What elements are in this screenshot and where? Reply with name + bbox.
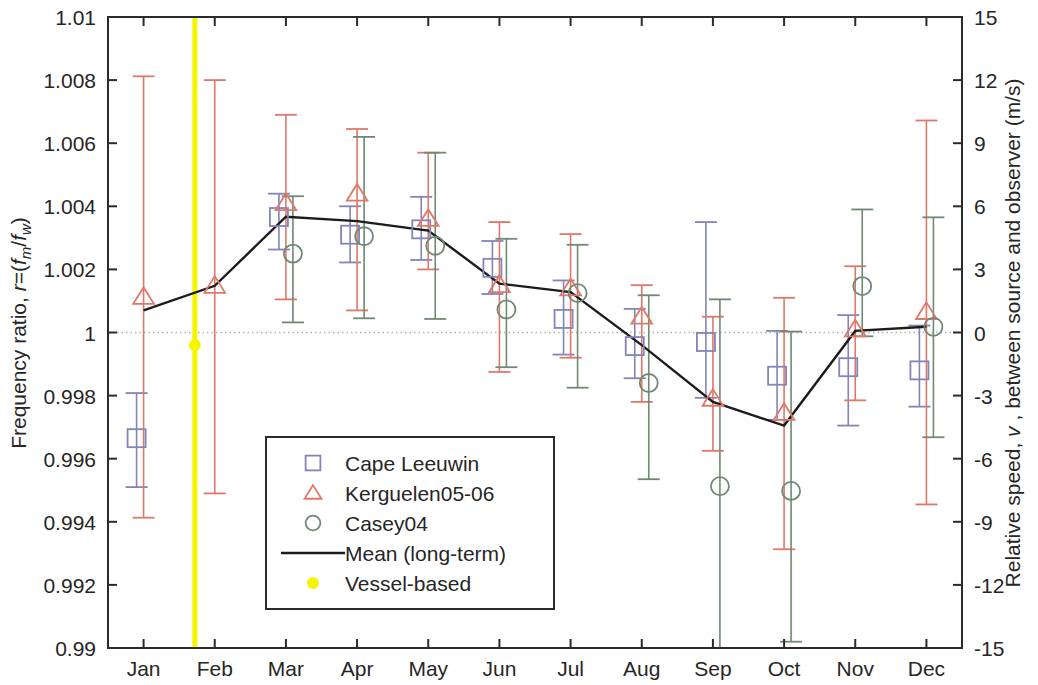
x-tick-label-nov: Nov xyxy=(837,657,875,680)
vessel-marker-group xyxy=(189,339,201,351)
y-axis-right-title: Relative speed, v , between source and o… xyxy=(1001,79,1024,588)
y-tick-label: 0.99 xyxy=(55,637,96,660)
y2-tick-label: -3 xyxy=(974,385,993,408)
x-tick-label-sep: Sep xyxy=(694,657,731,680)
y-tick-label: 1.004 xyxy=(43,195,96,218)
y-tick-label: 1.008 xyxy=(43,69,96,92)
x-tick-label-jun: Jun xyxy=(482,657,516,680)
chart-legend: Cape LeeuwinKerguelen05-06Casey04Mean (l… xyxy=(266,437,554,609)
x-tick-label-feb: Feb xyxy=(197,657,233,680)
y2-tick-label: 9 xyxy=(974,132,986,155)
y-tick-label: 1.01 xyxy=(55,6,96,29)
y-tick-label: 1.006 xyxy=(43,132,96,155)
x-tick-label-jan: Jan xyxy=(127,657,161,680)
y2-tick-label: 0 xyxy=(974,322,986,345)
legend-marker-dot xyxy=(307,577,319,589)
y-tick-label: 0.992 xyxy=(43,574,96,597)
svg-text:Frequency ratio, r=(fm/fw): Frequency ratio, r=(fm/fw) xyxy=(7,217,34,449)
x-tick-label-dec: Dec xyxy=(908,657,945,680)
y-tick-label: 1 xyxy=(84,322,96,345)
vessel-based-marker xyxy=(189,339,201,351)
chart-figure: 0.990.9920.9940.9960.99811.0021.0041.006… xyxy=(0,0,1038,685)
y2-tick-label: -9 xyxy=(974,511,993,534)
y2-tick-label: 3 xyxy=(974,258,986,281)
x-tick-label-apr: Apr xyxy=(341,657,374,680)
y2-tick-label: 6 xyxy=(974,195,986,218)
x-tick-label-mar: Mar xyxy=(268,657,304,680)
x-tick-label-oct: Oct xyxy=(768,657,801,680)
y2-tick-label: 15 xyxy=(974,6,997,29)
x-tick-label-jul: Jul xyxy=(557,657,584,680)
y2-tick-label: 12 xyxy=(974,69,997,92)
x-tick-label-may: May xyxy=(408,657,448,680)
y-axis-left-title: Frequency ratio, r=(fm/fw) xyxy=(7,217,34,449)
y-axis-left-ticks: 0.990.9920.9940.9960.99811.0021.0041.006… xyxy=(43,6,117,660)
x-tick-label-aug: Aug xyxy=(623,657,660,680)
legend-label: Vessel-based xyxy=(345,572,471,595)
y2-tick-label: -6 xyxy=(974,448,993,471)
y-tick-label: 0.996 xyxy=(43,448,96,471)
legend-label: Cape Leeuwin xyxy=(345,452,479,475)
y2-tick-label: -12 xyxy=(974,574,1004,597)
y-tick-label: 1.002 xyxy=(43,258,96,281)
svg-text:Relative speed, v , between so: Relative speed, v , between source and o… xyxy=(1001,79,1024,588)
frequency-ratio-chart: 0.990.9920.9940.9960.99811.0021.0041.006… xyxy=(0,0,1038,685)
y-tick-label: 0.998 xyxy=(43,385,96,408)
legend-label: Kerguelen05-06 xyxy=(345,482,494,505)
y2-tick-label: -15 xyxy=(974,637,1004,660)
legend-label: Casey04 xyxy=(345,512,428,535)
y-tick-label: 0.994 xyxy=(43,511,96,534)
legend-label: Mean (long-term) xyxy=(345,542,506,565)
